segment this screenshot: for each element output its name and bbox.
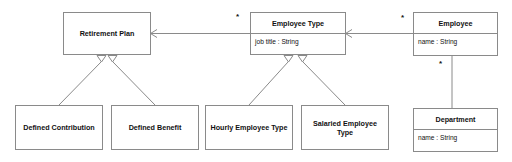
class-name-defined-contribution: Defined Contribution — [16, 106, 102, 149]
attribute-job-title: job title : String — [255, 38, 341, 47]
multiplicity-employeetype-to-retirementplan: * — [236, 13, 239, 21]
association-employeetype-retirementplan — [151, 30, 251, 38]
class-employee-type[interactable]: Employee Type job title : String — [250, 12, 346, 55]
class-retirement-plan[interactable]: Retirement Plan — [63, 12, 151, 55]
attribute-employee-name: name : String — [418, 38, 493, 47]
class-employee[interactable]: Employee name : String — [413, 12, 498, 56]
class-name-department: Department — [414, 109, 497, 130]
attribute-department-name: name : String — [418, 134, 493, 143]
attributes-department: name : String — [414, 130, 497, 151]
class-department[interactable]: Department name : String — [413, 108, 498, 152]
class-name-employee: Employee — [414, 13, 497, 34]
generalization-definedcontribution-retirementplan — [59, 56, 106, 106]
association-employee-employeetype — [346, 30, 414, 38]
class-name-defined-benefit: Defined Benefit — [112, 106, 198, 149]
class-defined-contribution[interactable]: Defined Contribution — [15, 105, 103, 150]
generalization-salariedemployeetype-employeetype — [298, 56, 345, 106]
class-name-hourly-employee-type: Hourly Employee Type — [206, 106, 292, 149]
attributes-employee-type: job title : String — [251, 34, 345, 54]
attributes-employee: name : String — [414, 34, 497, 55]
class-name-salaried-employee-type: Salaried Employee Type — [302, 106, 388, 149]
generalization-hourlyemployeetype-employeetype — [249, 56, 293, 106]
uml-class-diagram: Retirement Plan (navigable, open arrowhe… — [0, 0, 512, 162]
class-defined-benefit[interactable]: Defined Benefit — [111, 105, 199, 150]
multiplicity-employee-to-department: * — [439, 60, 442, 68]
class-name-employee-type: Employee Type — [251, 13, 345, 34]
class-name-retirement-plan: Retirement Plan — [64, 13, 150, 54]
class-salaried-employee-type[interactable]: Salaried Employee Type — [301, 105, 389, 150]
multiplicity-employee-to-employeetype: * — [401, 14, 404, 22]
class-hourly-employee-type[interactable]: Hourly Employee Type — [205, 105, 293, 150]
generalization-definedbenefit-retirementplan — [108, 56, 155, 106]
